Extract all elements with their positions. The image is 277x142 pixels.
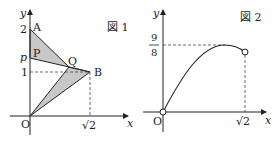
function-curve xyxy=(163,45,245,112)
figure-2-caption: 図 2 xyxy=(240,11,262,24)
figure-1-caption: 図 1 xyxy=(107,21,129,34)
y-tick-p: p xyxy=(20,51,27,64)
point-a-label: A xyxy=(32,21,42,34)
origin-label: O xyxy=(153,115,162,128)
figure-1: y x O A P Q B 2 p 1 √2 図 1 xyxy=(10,7,134,135)
figure-2: y x O 9 8 √2 図 2 xyxy=(143,7,272,132)
point-b-label: B xyxy=(94,66,102,79)
y-tick-2: 2 xyxy=(20,23,27,36)
y-axis-label: y xyxy=(152,7,160,20)
triangle-oqb xyxy=(30,67,90,116)
y-tick-1: 1 xyxy=(21,66,28,79)
x-axis-label: x xyxy=(265,114,272,127)
y-tick-denominator: 8 xyxy=(151,47,157,58)
x-tick-sqrt2: √2 xyxy=(236,115,250,128)
y-tick-numerator: 9 xyxy=(151,32,157,43)
point-p-label: P xyxy=(33,47,41,60)
x-tick-sqrt2: √2 xyxy=(82,119,96,132)
point-q-label: Q xyxy=(68,55,77,68)
figure-canvas: y x O A P Q B 2 p 1 √2 図 1 y x O 9 8 √2 … xyxy=(0,0,277,142)
y-axis-label: y xyxy=(19,7,27,20)
open-point-end xyxy=(242,49,248,55)
x-axis-label: x xyxy=(127,117,134,130)
origin-label: O xyxy=(21,118,30,131)
